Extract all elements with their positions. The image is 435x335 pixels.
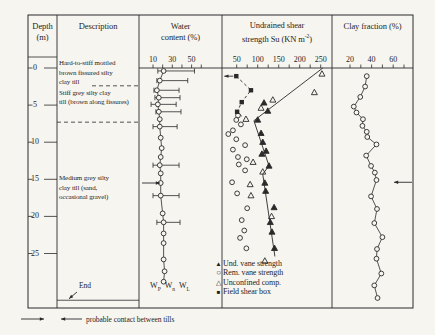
shear-strength-column-header: Undrained shear strength Su (KN m-2) [222,20,332,45]
open-triangle-icon: △ [214,278,223,287]
depth-tick-label: 20 [31,211,39,220]
filled-square-icon: ■ [214,288,223,297]
x-axis-tick-label: 10 [149,55,157,64]
legend-und-vane-strength: ▲Und. vane strength [214,259,283,268]
depth-tick-label: 25 [31,249,39,258]
description-column-header: Description [57,21,139,32]
x-axis-tick-label: 60 [389,55,397,64]
x-axis-tick-label: 150 [273,55,285,64]
x-axis-tick-label: 20 [346,55,354,64]
strength-marker-legend: ▲Und. vane strength ○Rem. vane strength … [214,259,283,297]
legend-unconfined-comp: △Unconfined comp. [214,278,283,287]
depth-header-line1: Depth [32,21,52,31]
contact-legend-text: probable contact between tills [86,315,174,324]
layer-1-description: Hard-to-stiff mottled brown fissured sil… [59,59,138,88]
x-axis-tick-label: 200 [294,55,306,64]
end-of-borehole-label: End [79,281,91,290]
water-content-column-header: Water content (%) [139,21,222,43]
water-limits-legend: WPWnWL [139,281,201,292]
natural-water-content-symbol: Wn [165,281,175,290]
depth-tick-label: 15 [31,174,39,183]
clay-fraction-column-header: Clay fraction (%) [332,21,413,32]
soil-profile-figure: Depth (m) Description Water content (%) … [0,0,435,335]
depth-header-line2: (m) [37,32,49,42]
depth-tick-label: 0 [33,63,37,72]
x-axis-tick-label: 40 [368,55,376,64]
depth-tick-label: 5 [33,100,37,109]
liquid-limit-symbol: WL [179,281,190,290]
depth-tick-label: 10 [31,137,39,146]
open-circle-icon: ○ [214,268,223,277]
filled-triangle-icon: ▲ [214,259,223,268]
legend-rem-vane-strength: ○Rem. vane strength [214,268,283,277]
depth-column-header: Depth (m) [28,21,57,43]
x-axis-tick-label: 30 [168,55,176,64]
x-axis-tick-label: 50 [188,55,196,64]
x-axis-tick-label: 100 [252,55,264,64]
plastic-limit-symbol: WP [150,281,161,290]
x-axis-tick-label: 250 [315,55,327,64]
x-axis-tick-label: 50 [233,55,241,64]
layer-2-description: Stiff grey silty clay till (brown along … [59,89,138,108]
legend-field-shear-box: ■Field shear box [214,287,283,296]
layer-3-description: Medium grey silty clay till (sand, occas… [59,174,138,203]
